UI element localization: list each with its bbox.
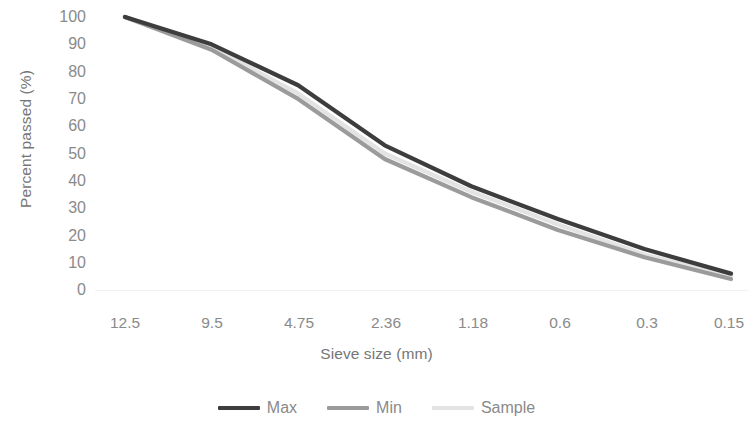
y-tick-90: 90 [30,36,86,52]
y-tick-50: 50 [30,146,86,162]
legend-label-sample: Sample [481,400,535,416]
y-axis-tick-labels: 100 90 80 70 60 50 40 30 20 10 0 [30,0,86,300]
x-axis-title: Sieve size (mm) [0,345,753,363]
series-line-sample [125,17,731,276]
series-line-max [125,17,731,274]
y-tick-70: 70 [30,91,86,107]
x-tick-0-15: 0.15 [714,315,744,331]
y-tick-20: 20 [30,228,86,244]
legend-swatch-sample-icon [432,406,474,410]
x-tick-1-18: 1.18 [458,315,488,331]
y-tick-30: 30 [30,200,86,216]
legend-swatch-min-icon [327,406,369,410]
legend-label-max: Max [267,400,297,416]
x-tick-2-36: 2.36 [371,315,401,331]
y-tick-80: 80 [30,64,86,80]
plot-area [0,0,753,432]
x-tick-4-75: 4.75 [284,315,314,331]
x-tick-0-6: 0.6 [549,315,571,331]
y-tick-40: 40 [30,173,86,189]
sieve-gradation-chart: Percent passed (%) 100 90 80 70 60 50 40… [0,0,753,432]
legend-item-sample[interactable]: Sample [432,400,535,416]
x-tick-0-3: 0.3 [636,315,658,331]
x-axis-tick-labels: 12.5 9.5 4.75 2.36 1.18 0.6 0.3 0.15 [0,315,753,341]
chart-legend: Max Min Sample [0,400,753,416]
y-tick-10: 10 [30,255,86,271]
legend-label-min: Min [376,400,402,416]
legend-item-min[interactable]: Min [327,400,402,416]
y-tick-100: 100 [30,9,86,25]
x-tick-12-5: 12.5 [110,315,140,331]
legend-item-max[interactable]: Max [218,400,297,416]
x-tick-9-5: 9.5 [201,315,223,331]
series-line-min [125,17,731,279]
y-tick-60: 60 [30,118,86,134]
y-tick-0: 0 [30,282,86,298]
legend-swatch-max-icon [218,406,260,410]
